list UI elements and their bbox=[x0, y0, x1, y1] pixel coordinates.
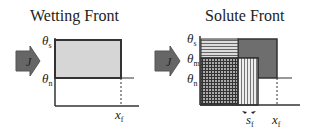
svg-text:θs: θs bbox=[42, 33, 52, 50]
svg-text:J: J bbox=[26, 55, 32, 69]
sf-arrow-right-icon bbox=[251, 111, 256, 114]
solute-front-panel: J θs θm θn sf xf bbox=[155, 31, 300, 129]
svg-text:sf: sf bbox=[246, 112, 254, 129]
svg-text:θn: θn bbox=[187, 71, 197, 88]
svg-text:xf: xf bbox=[114, 107, 124, 124]
wetting-front-panel: J θs θn xf bbox=[16, 33, 139, 124]
svg-text:θm: θm bbox=[187, 51, 200, 68]
diagram: J θs θn xf J θs θm θn sf xf bbox=[0, 0, 311, 131]
svg-text:θs: θs bbox=[187, 31, 197, 48]
svg-text:J: J bbox=[166, 55, 172, 69]
svg-text:θn: θn bbox=[42, 71, 52, 88]
svg-text:xf: xf bbox=[271, 112, 281, 129]
